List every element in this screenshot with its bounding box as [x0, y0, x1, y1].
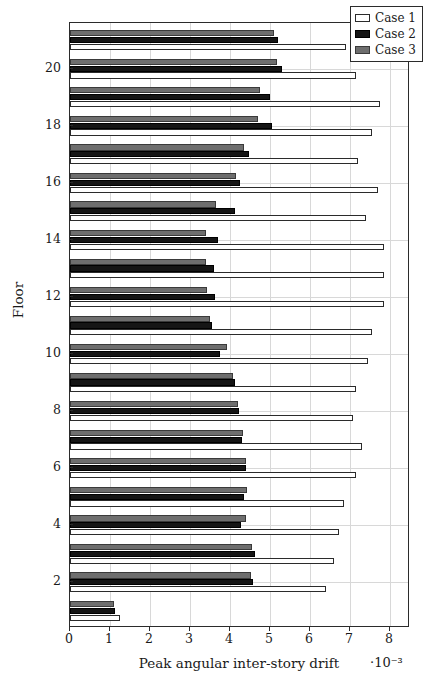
- bar-case-3-floor-17: [70, 144, 244, 150]
- x-tick-label: 8: [374, 632, 404, 646]
- bar-case-1-floor-5: [70, 500, 344, 506]
- bar-case-3-floor-15: [70, 201, 216, 207]
- bar-case-1-floor-18: [70, 129, 372, 135]
- y-tick-label: 10: [21, 346, 61, 360]
- x-gridline: [230, 23, 231, 626]
- y-tick-label: 8: [21, 403, 61, 417]
- bar-case-2-floor-2: [70, 579, 253, 585]
- bar-case-1-floor-12: [70, 301, 384, 307]
- bar-case-2-floor-16: [70, 180, 240, 186]
- x-tick-label: 0: [54, 632, 84, 646]
- y-tick: [69, 524, 73, 525]
- y-tick-label: 20: [21, 61, 61, 75]
- y-tick: [69, 353, 73, 354]
- bar-case-2-floor-6: [70, 465, 246, 471]
- y-tick-label: 12: [21, 289, 61, 303]
- bar-case-2-floor-13: [70, 265, 214, 271]
- bar-case-3-floor-16: [70, 173, 236, 179]
- bar-case-3-floor-14: [70, 230, 206, 236]
- y-tick-label: 2: [21, 574, 61, 588]
- bar-case-1-floor-9: [70, 386, 356, 392]
- x-axis-exponent-text: ·10⁻³: [370, 655, 403, 670]
- legend-label: Case 2: [375, 27, 416, 41]
- legend-label: Case 1: [375, 11, 416, 25]
- y-tick-label: 4: [21, 517, 61, 531]
- bar-case-2-floor-18: [70, 123, 272, 129]
- bar-case-3-floor-21: [70, 30, 274, 36]
- bar-case-2-floor-15: [70, 208, 235, 214]
- x-gridline: [310, 23, 311, 626]
- bar-case-1-floor-13: [70, 272, 384, 278]
- bar-case-3-floor-20: [70, 59, 277, 65]
- bar-case-3-floor-3: [70, 544, 252, 550]
- y-tick: [69, 467, 73, 468]
- x-tick-label: 2: [134, 632, 164, 646]
- bar-case-2-floor-21: [70, 37, 278, 43]
- bar-case-2-floor-20: [70, 66, 282, 72]
- legend-label: Case 3: [375, 43, 416, 57]
- bar-case-2-floor-5: [70, 494, 244, 500]
- bar-case-2-floor-9: [70, 379, 235, 385]
- bar-case-2-floor-19: [70, 94, 270, 100]
- legend-swatch-icon: [355, 14, 370, 22]
- bar-case-2-floor-8: [70, 408, 239, 414]
- x-axis-exponent: ·10⁻³: [370, 655, 403, 670]
- y-tick-label: 16: [21, 175, 61, 189]
- bar-case-1-floor-4: [70, 529, 339, 535]
- x-gridline: [270, 23, 271, 626]
- x-axis: 012345678: [69, 627, 409, 657]
- legend-swatch-icon: [355, 46, 370, 54]
- bar-case-3-floor-5: [70, 487, 247, 493]
- legend-swatch-icon: [355, 30, 370, 38]
- bar-case-1-floor-15: [70, 215, 366, 221]
- bar-case-1-floor-10: [70, 358, 368, 364]
- bar-case-1-floor-6: [70, 472, 356, 478]
- y-tick: [69, 410, 73, 411]
- chart-figure: 012345678 2468101214161820 Peak angular …: [0, 0, 429, 695]
- y-tick-label: 14: [21, 232, 61, 246]
- y-tick: [69, 125, 73, 126]
- bar-case-3-floor-1: [70, 601, 114, 607]
- x-gridline: [390, 23, 391, 626]
- bar-case-2-floor-17: [70, 151, 249, 157]
- bar-case-1-floor-19: [70, 101, 380, 107]
- bar-case-3-floor-11: [70, 316, 210, 322]
- bar-case-1-floor-2: [70, 586, 326, 592]
- bar-case-2-floor-1: [70, 608, 115, 614]
- plot-area: [69, 22, 409, 627]
- legend-item[interactable]: Case 1: [355, 10, 416, 26]
- bar-case-2-floor-12: [70, 294, 215, 300]
- bar-case-1-floor-7: [70, 443, 362, 449]
- x-tick-label: 6: [294, 632, 324, 646]
- y-tick-label: 6: [21, 460, 61, 474]
- bar-case-3-floor-8: [70, 401, 238, 407]
- bar-case-3-floor-7: [70, 430, 243, 436]
- y-tick: [69, 239, 73, 240]
- legend: Case 1Case 2Case 3: [350, 6, 423, 62]
- y-tick: [69, 581, 73, 582]
- x-tick-label: 3: [174, 632, 204, 646]
- bar-case-1-floor-20: [70, 72, 356, 78]
- bar-case-1-floor-8: [70, 415, 353, 421]
- bar-case-1-floor-21: [70, 44, 346, 50]
- legend-item[interactable]: Case 3: [355, 42, 416, 58]
- y-tick: [69, 296, 73, 297]
- x-tick-label: 4: [214, 632, 244, 646]
- y-axis-label: Floor: [10, 270, 26, 330]
- bar-case-3-floor-18: [70, 116, 258, 122]
- bar-case-3-floor-9: [70, 373, 233, 379]
- x-tick-label: 5: [254, 632, 284, 646]
- legend-item[interactable]: Case 2: [355, 26, 416, 42]
- y-tick-label: 18: [21, 118, 61, 132]
- bar-case-2-floor-11: [70, 322, 212, 328]
- bar-case-1-floor-11: [70, 329, 372, 335]
- bar-case-2-floor-10: [70, 351, 220, 357]
- bar-case-1-floor-3: [70, 558, 334, 564]
- bar-case-3-floor-4: [70, 515, 246, 521]
- x-gridline: [350, 23, 351, 626]
- bar-case-3-floor-19: [70, 87, 260, 93]
- bar-case-1-floor-14: [70, 244, 384, 250]
- x-axis-label: Peak angular inter-story drift: [69, 655, 409, 671]
- bar-case-2-floor-3: [70, 551, 255, 557]
- bar-case-3-floor-10: [70, 344, 227, 350]
